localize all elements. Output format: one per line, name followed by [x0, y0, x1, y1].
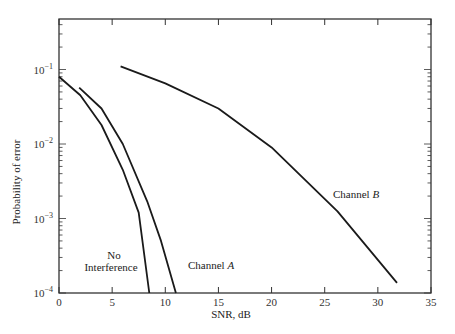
x-tick-label: 25: [319, 296, 331, 308]
curve-channel-b: [121, 66, 397, 282]
y-axis-ticks: 10−110−210−310−4: [33, 25, 431, 299]
label-no-interference: No: [107, 249, 121, 261]
x-axis-title: SNR, dB: [211, 308, 251, 320]
y-tick-label: 10−3: [33, 211, 53, 225]
x-tick-label: 5: [109, 296, 115, 308]
y-tick-label: 10−2: [33, 136, 53, 150]
x-tick-label: 30: [372, 296, 384, 308]
x-tick-label: 0: [56, 296, 62, 308]
x-tick-label: 15: [213, 296, 225, 308]
error-probability-chart: 05101520253035 10−110−210−310−4 NoInterf…: [0, 0, 455, 334]
y-tick-label: 10−4: [33, 285, 53, 299]
y-axis-title: Probability of error: [10, 139, 22, 224]
y-tick-label: 10−1: [33, 62, 53, 76]
label-channel-a: Channel A: [188, 259, 234, 271]
label-channel-b: Channel B: [333, 188, 379, 200]
series-labels: NoInterferenceChannel AChannel B: [84, 188, 379, 273]
x-tick-label: 10: [160, 296, 172, 308]
x-tick-label: 35: [426, 296, 438, 308]
x-tick-label: 20: [266, 296, 278, 308]
label-no-interference-line2: Interference: [84, 261, 137, 273]
